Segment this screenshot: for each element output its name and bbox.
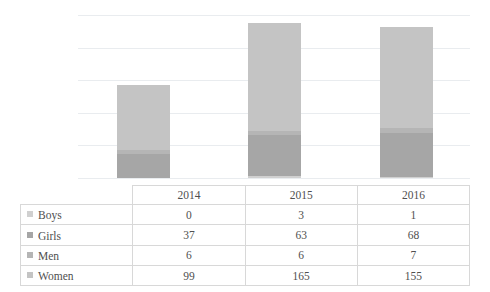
cell-girls-2016: 68 (357, 225, 469, 245)
chart-data-table: 201420152016Boys031Girls376368Men667Wome… (20, 185, 470, 286)
cell-women-2014: 99 (133, 266, 245, 286)
legend-label: Boys (38, 206, 62, 224)
cell-boys-2015: 3 (245, 205, 357, 225)
legend-label: Girls (38, 227, 61, 245)
bar-segment-boys (248, 176, 301, 178)
cell-boys-2014: 0 (133, 205, 245, 225)
bar-2016 (380, 0, 433, 185)
table-row: Men667 (21, 245, 470, 265)
cell-women-2016: 155 (357, 266, 469, 286)
cell-men-2014: 6 (133, 245, 245, 265)
stacked-bar-chart (0, 0, 490, 185)
legend-swatch-icon (27, 232, 33, 238)
legend-swatch-icon (27, 211, 33, 217)
table-row: Boys031 (21, 205, 470, 225)
cell-girls-2014: 37 (133, 225, 245, 245)
bar-2015 (248, 0, 301, 185)
table-row: Women99165155 (21, 266, 470, 286)
column-header-2015: 2015 (245, 186, 357, 205)
bar-segment-girls (248, 135, 301, 176)
cell-women-2015: 165 (245, 266, 357, 286)
bar-segment-boys (380, 177, 433, 178)
column-header-2016: 2016 (357, 186, 469, 205)
legend-swatch-icon (27, 252, 33, 258)
bar-2014 (117, 0, 170, 185)
table-corner-cell (21, 186, 133, 205)
cell-men-2016: 7 (357, 245, 469, 265)
bar-segment-men (117, 150, 170, 154)
bar-segment-girls (380, 133, 433, 177)
bar-segment-women (117, 85, 170, 150)
legend-label: Men (38, 247, 59, 265)
legend-cell-women: Women (21, 266, 133, 286)
legend-cell-girls: Girls (21, 225, 133, 245)
cell-boys-2016: 1 (357, 205, 469, 225)
legend-label: Women (38, 267, 73, 285)
table-header-row: 201420152016 (21, 186, 470, 205)
cell-men-2015: 6 (245, 245, 357, 265)
bar-segment-women (380, 27, 433, 128)
bar-segment-men (380, 128, 433, 133)
legend-cell-men: Men (21, 245, 133, 265)
cell-girls-2015: 63 (245, 225, 357, 245)
table-row: Girls376368 (21, 225, 470, 245)
bar-segment-girls (117, 154, 170, 178)
legend-swatch-icon (27, 272, 33, 278)
chart-plot-area (78, 0, 470, 185)
bar-segment-men (248, 131, 301, 135)
legend-cell-boys: Boys (21, 205, 133, 225)
column-header-2014: 2014 (133, 186, 245, 205)
bar-segment-women (248, 23, 301, 131)
